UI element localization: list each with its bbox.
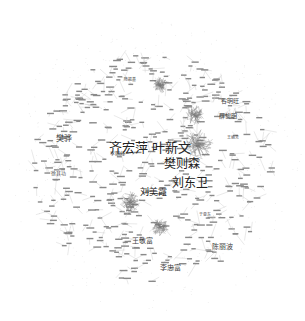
node-label: 刘美霞 — [140, 188, 167, 197]
node-label: 刘东卫 — [172, 177, 208, 189]
node-label: 王丽芳 — [227, 136, 239, 140]
node-label: 樊则森 — [164, 158, 200, 170]
node-label: 陈振基 — [124, 78, 136, 82]
node-label: 李忠富 — [160, 265, 181, 272]
node-label: 樊骅 — [56, 135, 72, 143]
network-graph: 齐宏萍 叶新文樊则森刘东卫刘美霞樊骅谷明旺薛黎明王敬富陈丽波李忠富李丽红徐其功于… — [0, 0, 305, 321]
graph-edges — [0, 0, 305, 321]
node-label: 于亚东 — [199, 213, 211, 217]
node-label: 王敬富 — [132, 238, 153, 245]
node-label: 谷明旺 — [221, 98, 239, 104]
node-label: 徐其功 — [51, 171, 66, 176]
node-label: 陈丽波 — [212, 244, 233, 251]
node-label: 薛黎明 — [219, 113, 237, 119]
node-label: 李丽红 — [110, 151, 125, 156]
